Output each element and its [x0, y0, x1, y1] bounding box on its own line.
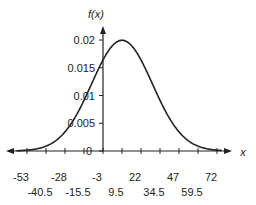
x-axis-right-arrow-icon	[224, 148, 232, 154]
density-curve	[16, 40, 221, 150]
y-tick-label: 0.005	[67, 117, 95, 129]
x-tick-label: 22	[129, 171, 141, 183]
x-tick-label: -40.5	[27, 186, 52, 198]
y-tick-label-origin: 0	[86, 145, 92, 157]
y-axis-arrow-icon	[100, 26, 106, 34]
x-tick-label: 72	[205, 171, 217, 183]
x-tick-label: -53	[13, 171, 29, 183]
x-tick-label: -15.5	[65, 186, 90, 198]
y-tick-label: 0.01	[74, 90, 95, 102]
y-tick-label: 0.02	[74, 34, 95, 46]
y-tick-label: 0.015	[67, 62, 95, 74]
x-tick-label: 47	[167, 171, 179, 183]
x-tick-label: -3	[92, 171, 102, 183]
x-axis-label: x	[240, 146, 246, 158]
x-tick-label: 59.5	[181, 186, 202, 198]
x-tick-label: 9.5	[108, 186, 123, 198]
x-tick-label: -28	[51, 171, 67, 183]
y-axis-label: f(x)	[88, 8, 104, 20]
axes	[6, 26, 232, 154]
x-tick-label: 34.5	[143, 186, 164, 198]
x-axis-left-arrow-icon	[6, 148, 14, 154]
